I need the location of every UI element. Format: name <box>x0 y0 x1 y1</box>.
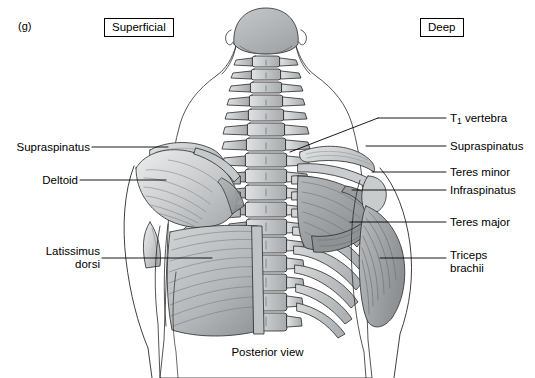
label-teres-minor: Teres minor <box>450 166 510 179</box>
label-t1-vertebra: T1 vertebra <box>450 112 507 126</box>
label-infraspinatus: Infraspinatus <box>450 184 516 197</box>
figure-canvas: (g) Superficial Deep Supraspinatus Delto… <box>0 0 535 378</box>
label-supraspinatus-left: Supraspinatus <box>0 141 90 154</box>
superficial-label-box: Superficial <box>104 18 174 37</box>
t1-subscript: 1 <box>457 116 462 126</box>
label-latissimus-dorsi: Latissimus dorsi <box>0 245 100 271</box>
figure-caption: Posterior view <box>0 346 535 358</box>
label-supraspinatus-right: Supraspinatus <box>450 140 524 153</box>
figure-letter: (g) <box>18 20 31 32</box>
label-teres-major: Teres major <box>450 216 510 229</box>
deep-label-box: Deep <box>420 18 464 37</box>
lumbar-aponeurosis <box>252 226 264 334</box>
label-deltoid: Deltoid <box>0 174 78 187</box>
t1-prefix: T <box>450 112 457 124</box>
head <box>234 8 298 54</box>
triceps-brachii-muscle <box>359 206 404 327</box>
t1-suffix: vertebra <box>465 112 507 124</box>
label-triceps-brachii: Triceps brachii <box>450 249 487 275</box>
